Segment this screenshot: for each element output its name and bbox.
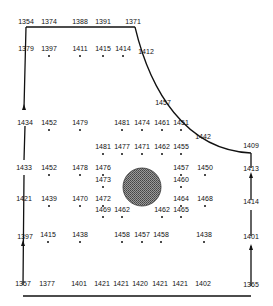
measurement-point-marker (48, 55, 50, 57)
measurement-point-marker (141, 241, 143, 243)
boundary_labels-label: 1457 (155, 99, 171, 106)
interior_points-label: 1411 (72, 45, 87, 52)
boundary_labels-label: 1421 (152, 280, 168, 287)
measurement-point-marker (141, 129, 143, 131)
boundary_labels-label: 1421 (113, 280, 129, 287)
measurement-point-marker (48, 205, 50, 207)
arrow-left-upper (22, 104, 26, 110)
boundary_labels-label: 1421 (172, 280, 188, 287)
arrow-right-lower (249, 244, 253, 250)
measurement-point-marker (102, 55, 104, 57)
measurement-point-marker (141, 153, 143, 155)
boundary_labels-label: 1421 (16, 195, 32, 202)
measurement-point-marker (121, 129, 123, 131)
interior_points-label: 1469 (95, 206, 111, 213)
measurement-point-marker (161, 216, 163, 218)
boundary_labels-label: 1409 (243, 142, 259, 149)
interior_points-label: 1414 (115, 45, 131, 52)
interior_points-label: 1481 (114, 119, 130, 126)
interior_points-label: 1460 (173, 176, 189, 183)
interior_points-label: 1462 (114, 206, 130, 213)
measurement-point-marker (180, 153, 182, 155)
boundary_labels-label: 1379 (18, 45, 34, 52)
measurement-point-marker (79, 129, 81, 131)
central-circular-feature (123, 168, 161, 206)
interior_points-label: 1474 (134, 119, 150, 126)
interior_points-label: 1481 (95, 143, 111, 150)
boundary_labels-label: 1391 (95, 18, 111, 25)
boundary_labels-label: 1401 (243, 233, 259, 240)
interior_points-label: 1457 (173, 164, 189, 171)
measurement-point-marker (180, 186, 182, 188)
boundary_labels-label: 1371 (125, 18, 141, 25)
measurement-point-marker (121, 216, 123, 218)
interior_points-label: 1415 (40, 231, 56, 238)
measurement-point-marker (180, 129, 182, 131)
boundary_labels-label: 1357 (15, 280, 31, 287)
boundary_labels-label: 1354 (18, 18, 34, 25)
interior_points-label: 1450 (197, 164, 213, 171)
measurement-point-marker (122, 55, 124, 57)
interior_points-label: 1462 (154, 143, 170, 150)
boundary_labels-label: 1420 (132, 280, 148, 287)
interior_points-label: 1452 (41, 164, 57, 171)
interior_points-label: 1461 (154, 119, 170, 126)
measurement-point-marker (121, 153, 123, 155)
measurement-point-marker (79, 241, 81, 243)
boundary_labels-label: 1434 (17, 119, 33, 126)
interior_points-label: 1478 (72, 164, 88, 171)
interior_points-label: 1464 (173, 195, 189, 202)
interior_points-label: 1477 (114, 143, 130, 150)
interior_points-label: 1468 (197, 195, 213, 202)
measurement-point-marker (79, 174, 81, 176)
measurement-point-marker (180, 216, 182, 218)
boundary_labels-label: 1388 (72, 18, 88, 25)
measurement-point-marker (160, 241, 162, 243)
interior_points-label: 1470 (72, 195, 88, 202)
interior_points-label: 1472 (95, 195, 111, 202)
boundary_labels-label: 1397 (17, 233, 33, 240)
interior_points-label: 1439 (41, 195, 57, 202)
measurement-point-marker (47, 241, 49, 243)
measurement-point-marker (203, 241, 205, 243)
boundary-arc (135, 27, 251, 153)
arrow-left-lower (21, 240, 25, 246)
interior_points-label: 1451 (173, 119, 189, 126)
measurement-point-marker (102, 153, 104, 155)
measurement-point-marker (48, 174, 50, 176)
interior_points-label: 1479 (72, 119, 88, 126)
interior_points-label: 1397 (41, 45, 57, 52)
interior_points-label: 1473 (95, 176, 111, 183)
boundary_labels-label: 1377 (39, 280, 55, 287)
boundary_labels-label: 1412 (138, 48, 154, 55)
boundary_labels-label: 1374 (41, 18, 57, 25)
interior_points-label: 1438 (72, 231, 88, 238)
measurement-point-marker (161, 153, 163, 155)
boundary-left-line (23, 27, 26, 285)
interior_points-label: 1455 (173, 143, 189, 150)
interior_points-label: 1452 (41, 119, 57, 126)
interior_points-label: 1471 (134, 143, 150, 150)
boundary_labels-label: 1442 (195, 133, 211, 140)
measurement-point-marker (204, 205, 206, 207)
interior_points-label: 1458 (153, 231, 169, 238)
interior_points-label: 1457 (134, 231, 150, 238)
interior_points-label: 1458 (114, 231, 130, 238)
boundary_labels-label: 1402 (195, 280, 211, 287)
interior_points-label: 1438 (196, 231, 212, 238)
boundary_labels-label: 1433 (16, 164, 32, 171)
measurement-point-marker (121, 241, 123, 243)
measurement-point-marker (48, 129, 50, 131)
interior_points-label: 1476 (95, 164, 111, 171)
measurement-point-marker (102, 186, 104, 188)
measurement-point-marker (79, 55, 81, 57)
interior_points-label: 1462 (154, 206, 170, 213)
measurement-point-marker (204, 174, 206, 176)
boundary_labels-label: 1401 (71, 280, 87, 287)
measurement-point-marker (102, 216, 104, 218)
boundary_labels-label: 1414 (243, 198, 259, 205)
arrow-right-upper (249, 172, 253, 178)
boundary_labels-label: 1421 (94, 280, 110, 287)
measurement-point-marker (161, 129, 163, 131)
boundary_labels-label: 1365 (243, 281, 259, 288)
